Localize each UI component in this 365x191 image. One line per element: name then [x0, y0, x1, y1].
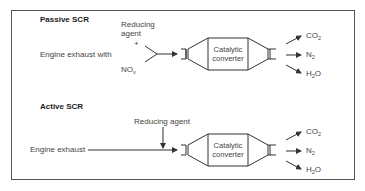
merge-chevron-icon: [145, 46, 157, 62]
diagram-graphics: [0, 0, 365, 191]
passive-scr-heading: Passive SCR: [40, 16, 89, 24]
active-converter-label: Catalytic converter: [208, 141, 248, 159]
passive-output-h2o: H2O: [306, 70, 321, 80]
active-output-co2: CO2: [306, 128, 321, 138]
active-output-h2o: H2O: [306, 166, 321, 176]
active-reagent-label: Reducing agent: [134, 118, 190, 126]
passive-out-co2-arrow: [286, 36, 301, 44]
passive-nox-label: NOx: [121, 66, 136, 76]
passive-converter-label: Catalytic converter: [208, 45, 248, 63]
active-out-co2-arrow: [286, 132, 301, 140]
passive-input-label: Engine exhaust with: [40, 51, 112, 59]
active-scr-heading: Active SCR: [40, 103, 83, 111]
passive-output-n2: N2: [306, 51, 315, 61]
active-output-n2: N2: [306, 147, 315, 157]
passive-output-co2: CO2: [306, 32, 321, 42]
passive-reagent-label-2: agent: [121, 30, 141, 38]
active-out-h2o-arrow: [286, 161, 301, 169]
active-input-label: Engine exhaust: [30, 146, 85, 154]
passive-reagent-label-1: Reducing: [121, 21, 155, 29]
passive-out-h2o-arrow: [286, 65, 301, 73]
passive-plus-sign: +: [134, 40, 139, 48]
